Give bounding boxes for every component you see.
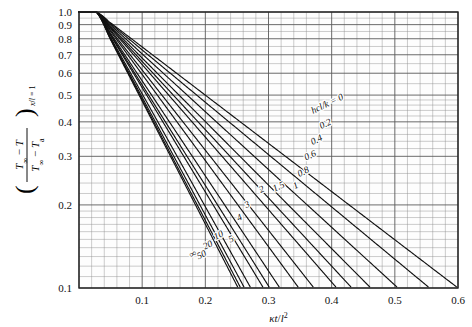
- x-tick-0.5: 0.5: [388, 294, 402, 306]
- y-label-paren-left: (: [10, 185, 39, 194]
- y-tick-0.8: 0.8: [58, 33, 72, 45]
- y-label-denominator: T∞ − Ta: [29, 138, 46, 172]
- y-label-paren-right: ): [10, 108, 39, 117]
- y-label-subscript: x/l = 1: [28, 85, 37, 107]
- y-axis-label-rotated: ()T∞ − TT∞ − Tax/l = 1: [10, 85, 46, 194]
- x-axis-tick-labels: 0.10.20.30.40.50.6: [135, 294, 465, 306]
- y-tick-1.0: 1.0: [58, 6, 72, 18]
- x-tick-0.3: 0.3: [262, 294, 276, 306]
- chart-root: hcl/k = 0hcl/k = 00.20.20.40.40.60.60.80…: [0, 0, 472, 327]
- y-tick-0.6: 0.6: [58, 67, 72, 79]
- y-tick-0.2: 0.2: [58, 199, 72, 211]
- y-axis-tick-labels: 0.10.20.30.40.50.60.70.80.91.0: [58, 6, 72, 294]
- y-axis-label: ()T∞ − TT∞ − Tax/l = 1: [10, 85, 46, 194]
- y-tick-0.1: 0.1: [58, 282, 72, 294]
- x-tick-0.2: 0.2: [198, 294, 212, 306]
- x-tick-0.1: 0.1: [135, 294, 149, 306]
- x-axis-label: κt/l2: [269, 311, 287, 325]
- y-tick-0.3: 0.3: [58, 150, 72, 162]
- x-axis-label-text: κt/l2: [269, 311, 287, 325]
- y-tick-0.9: 0.9: [58, 19, 72, 31]
- y-tick-0.4: 0.4: [58, 116, 72, 128]
- transient-conduction-chart: hcl/k = 0hcl/k = 00.20.20.40.40.60.60.80…: [0, 0, 472, 327]
- x-tick-0.6: 0.6: [451, 294, 465, 306]
- y-tick-0.5: 0.5: [58, 89, 72, 101]
- x-tick-0.4: 0.4: [325, 294, 339, 306]
- y-tick-0.7: 0.7: [58, 49, 72, 61]
